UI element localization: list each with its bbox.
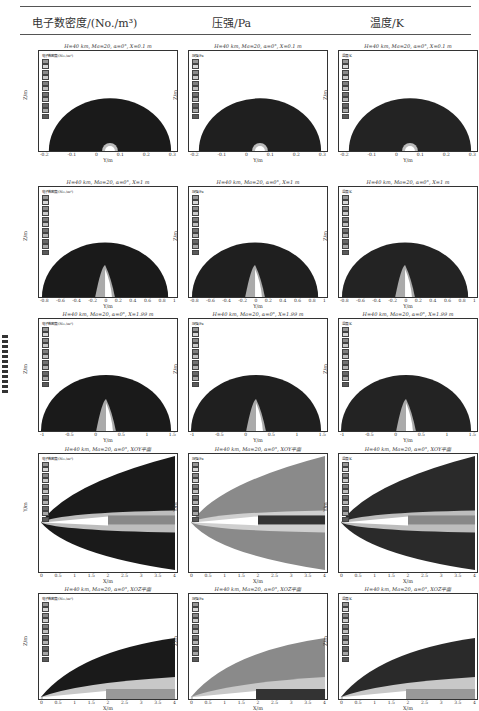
x-axis-label: Y/m	[338, 157, 478, 163]
legend-swatch	[342, 640, 349, 645]
legend-title: 温度/K	[342, 596, 382, 601]
legend-swatch	[192, 92, 199, 97]
panel-title: H=40 km, Ma=20, α=0°, XOY平面	[38, 445, 178, 453]
color-legend: 温度/K	[342, 596, 382, 662]
x-axis-label: Y/m	[338, 437, 478, 443]
legend-swatch	[192, 635, 199, 640]
legend-swatch	[42, 489, 49, 494]
contour-panel: H=40 km, Ma=20, α=0°, XOY平面电子数密度/(No./m³…	[38, 445, 178, 584]
legend-swatch	[42, 103, 49, 108]
legend-title: 电子数密度/(No./m³)	[42, 53, 82, 58]
legend-swatch	[42, 81, 49, 86]
legend-swatch	[342, 217, 349, 222]
legend-swatch	[192, 646, 199, 651]
legend-swatch	[42, 365, 49, 370]
panel-title: H=40 km, Ma=20, α=0°, X=1.99 m	[38, 310, 178, 318]
y-axis-label: Z/m	[22, 90, 28, 100]
legend-swatch	[42, 332, 49, 337]
contour-panel: H=40 km, Ma=20, α=0°, XOZ平面压强/Pa3.532.52…	[188, 585, 328, 711]
legend-swatch	[192, 114, 199, 119]
legend-swatch	[42, 75, 49, 80]
legend-swatch	[342, 624, 349, 629]
legend-swatch	[192, 607, 199, 612]
legend-swatch	[342, 343, 349, 348]
legend-swatch	[42, 506, 49, 511]
contour-panel: H=40 km, Ma=20, α=0°, X=1.99 m电子数密度/(No.…	[38, 310, 178, 443]
legend-swatch	[42, 228, 49, 233]
x-axis-label: X/m	[188, 705, 328, 711]
legend-swatch	[342, 613, 349, 618]
legend-swatch	[42, 382, 49, 387]
legend-swatch	[42, 467, 49, 472]
legend-swatch	[42, 97, 49, 102]
contour-plot: 电子数密度/(No./m³)0.40.20	[38, 50, 178, 152]
x-axis-label: Y/m	[338, 303, 478, 309]
color-legend: 压强/Pa	[192, 189, 232, 255]
header-electron-density: 电子数密度/(No./m³)	[32, 14, 137, 30]
legend-swatch	[42, 602, 49, 607]
legend-swatch	[342, 489, 349, 494]
y-axis-label: Z/m	[172, 90, 178, 100]
contour-plot: 温度/K1.61.41.210.80.60.40.20	[338, 186, 478, 298]
contour-plot: 温度/K21.510.50-0.5-1-1.5	[338, 453, 478, 573]
side-marker	[2, 335, 8, 395]
legend-swatch	[342, 233, 349, 238]
legend-swatch	[42, 92, 49, 97]
legend-swatch	[192, 624, 199, 629]
legend-swatch	[342, 228, 349, 233]
contour-plot: 电子数密度/(No./m³)1.61.41.210.80.60.40.20	[38, 186, 178, 298]
legend-swatch	[42, 478, 49, 483]
legend-title: 压强/Pa	[192, 53, 232, 58]
legend-title: 压强/Pa	[192, 321, 232, 326]
legend-swatch	[42, 360, 49, 365]
legend-swatch	[192, 332, 199, 337]
legend-swatch	[342, 618, 349, 623]
legend-swatch	[342, 64, 349, 69]
legend-swatch	[192, 327, 199, 332]
legend-swatch	[342, 195, 349, 200]
legend-swatch	[192, 517, 199, 522]
x-axis-label: X/m	[188, 578, 328, 584]
legend-swatch	[42, 343, 49, 348]
legend-swatch	[342, 651, 349, 656]
legend-swatch	[192, 382, 199, 387]
panel-title: H=40 km, Ma=20, α=0°, X=1 m	[338, 178, 478, 186]
legend-swatch	[342, 92, 349, 97]
legend-swatch	[342, 354, 349, 359]
legend-swatch	[42, 327, 49, 332]
legend-swatch	[192, 103, 199, 108]
legend-swatch	[342, 327, 349, 332]
contour-plot: 压强/Pa3.532.521.510.50	[188, 593, 328, 700]
header-rule	[20, 34, 471, 35]
legend-swatch	[42, 500, 49, 505]
legend-swatch	[342, 495, 349, 500]
x-axis-label: Y/m	[38, 157, 178, 163]
contour-plot: 压强/Pa1.61.41.210.80.60.40.20	[188, 186, 328, 298]
color-legend: 电子数密度/(No./m³)	[42, 53, 82, 119]
y-axis-label: Y/m	[22, 502, 28, 512]
legend-swatch	[192, 64, 199, 69]
legend-swatch	[342, 244, 349, 249]
panel-title: H=40 km, Ma=20, α=0°, XOZ平面	[338, 585, 478, 593]
legend-swatch	[42, 64, 49, 69]
legend-title: 压强/Pa	[192, 189, 232, 194]
legend-swatch	[192, 365, 199, 370]
legend-swatch	[342, 365, 349, 370]
legend-swatch	[192, 233, 199, 238]
legend-swatch	[342, 517, 349, 522]
legend-swatch	[192, 371, 199, 376]
legend-swatch	[42, 338, 49, 343]
legend-swatch	[192, 360, 199, 365]
legend-swatch	[42, 462, 49, 467]
legend-title: 电子数密度/(No./m³)	[42, 456, 82, 461]
legend-swatch	[42, 233, 49, 238]
legend-swatch	[192, 629, 199, 634]
legend-swatch	[342, 371, 349, 376]
y-axis-label: Z/m	[322, 231, 328, 241]
legend-swatch	[342, 97, 349, 102]
legend-swatch	[42, 195, 49, 200]
top-rule	[20, 6, 471, 7]
legend-swatch	[342, 70, 349, 75]
contour-plot: 压强/Pa21.510.50-0.5-1-1.5	[188, 453, 328, 573]
legend-title: 电子数密度/(No./m³)	[42, 189, 82, 194]
